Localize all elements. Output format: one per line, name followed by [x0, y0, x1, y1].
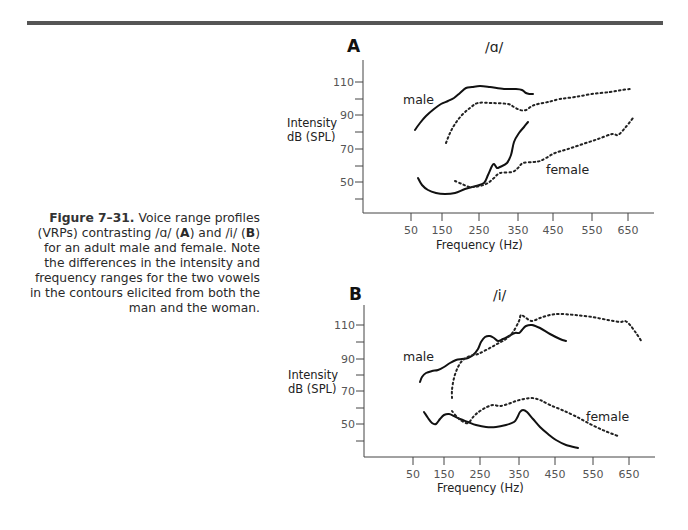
y-axis-title-a-line2: dB (SPL): [287, 130, 335, 144]
chart-panel-b: B /i/ 110907050 50150250350450550650 Int…: [288, 284, 655, 495]
curve-female-lower: [455, 118, 633, 187]
y-axis-title-a-line1: Intensity: [287, 116, 337, 130]
y-tick-label: 110: [334, 319, 355, 332]
y-axis-title-b-line1: Intensity: [288, 368, 338, 382]
x-tick-label: 250: [470, 468, 491, 481]
axes-b: [356, 305, 655, 465]
curve-male-lower: [418, 122, 528, 194]
panel-title-a: /ɑ/: [485, 39, 504, 55]
x-tick-label: 350: [509, 468, 530, 481]
series-label-male: male: [403, 92, 434, 107]
curve-female-upper: [446, 89, 630, 143]
panel-letter-b: B: [349, 284, 362, 304]
series-label-female: female: [546, 162, 589, 177]
series-labels-a: malefemale: [403, 92, 589, 177]
y-tick-label: 70: [341, 385, 355, 398]
x-tick-label: 250: [469, 224, 490, 237]
x-tick-label: 450: [545, 468, 566, 481]
y-tick-label: 90: [340, 109, 354, 122]
x-tick-label: 550: [582, 224, 603, 237]
y-tick-label: 90: [341, 353, 355, 366]
x-tick-labels-a: 50150250350450550650: [404, 224, 639, 237]
x-tick-label: 50: [406, 468, 420, 481]
curve-male-upper: [420, 325, 566, 382]
series-label-female: female: [586, 409, 629, 424]
x-tick-label: 350: [508, 224, 529, 237]
chart-panel-a: A /ɑ/ 110907050 50150250350450550650 Int…: [287, 36, 654, 252]
panel-title-b: /i/: [493, 287, 507, 303]
y-tick-labels-a: 110907050: [333, 76, 354, 189]
curve-female-upper: [452, 314, 642, 398]
x-tick-label: 150: [432, 224, 453, 237]
axes-a: [355, 60, 654, 221]
curves-a: [415, 86, 633, 194]
x-tick-label: 450: [543, 224, 564, 237]
x-tick-label: 550: [583, 468, 604, 481]
y-tick-label: 50: [341, 418, 355, 431]
y-axis-title-b-line2: dB (SPL): [288, 382, 336, 396]
curves-b: [420, 314, 642, 448]
series-labels-b: malefemale: [403, 349, 629, 424]
y-tick-label: 50: [340, 176, 354, 189]
curve-male-lower: [424, 410, 578, 448]
x-tick-label: 50: [404, 224, 418, 237]
series-label-male: male: [403, 349, 434, 364]
x-axis-title-a: Frequency (Hz): [436, 238, 523, 252]
x-tick-label: 150: [434, 468, 455, 481]
charts-canvas: A /ɑ/ 110907050 50150250350450550650 Int…: [0, 0, 688, 530]
y-tick-label: 110: [333, 76, 354, 89]
x-tick-label: 650: [618, 224, 639, 237]
x-axis-title-b: Frequency (Hz): [437, 481, 524, 495]
x-tick-labels-b: 50150250350450550650: [406, 468, 640, 481]
y-tick-label: 70: [340, 143, 354, 156]
x-tick-label: 650: [619, 468, 640, 481]
axis-lines: [363, 60, 654, 213]
panel-letter-a: A: [347, 36, 361, 56]
